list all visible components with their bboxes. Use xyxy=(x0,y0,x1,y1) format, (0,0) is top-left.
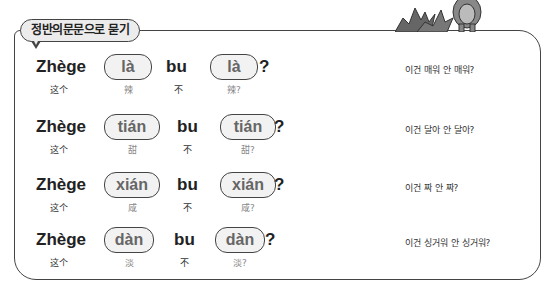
speech-tail-icon xyxy=(31,41,41,49)
adjective-repeat-hanzi: 甜? xyxy=(220,143,276,156)
subject-pinyin: Zhège xyxy=(36,230,86,250)
negation-pinyin: bu xyxy=(177,117,198,137)
adjective-hanzi: 辣 xyxy=(104,83,152,96)
sentence-row-3: Zhège 这个 xián 咸 bu 不 xián 咸? ? 이건 짜 안 짜? xyxy=(0,175,552,225)
korean-translation: 이건 달아 안 달아? xyxy=(405,123,474,136)
adjective-pill: dàn xyxy=(104,227,154,253)
section-title: 정반의문문으로 묻기 xyxy=(31,23,129,37)
question-mark: ? xyxy=(274,117,284,137)
mascot-decoration-icon xyxy=(395,0,485,32)
subject-hanzi: 这个 xyxy=(50,83,68,96)
negation-pinyin: bu xyxy=(174,230,195,250)
sentence-row-4: Zhège 这个 dàn 淡 bu 不 dàn 淡? ? 이건 싱거워 안 싱거… xyxy=(0,230,552,280)
adjective-pill: là xyxy=(104,54,152,80)
sentence-row-1: Zhège 这个 là 辣 bu 不 là 辣? ? 이건 매워 안 매워? xyxy=(0,57,552,107)
question-mark: ? xyxy=(274,175,284,195)
adjective-repeat-pill: tián xyxy=(220,114,276,140)
adjective-repeat-hanzi: 辣? xyxy=(210,83,258,96)
korean-translation: 이건 매워 안 매워? xyxy=(405,63,474,76)
section-title-bubble: 정반의문문으로 묻기 xyxy=(20,19,140,42)
negation-pinyin: bu xyxy=(177,175,198,195)
adjective-hanzi: 甜 xyxy=(104,143,160,156)
question-mark: ? xyxy=(265,230,275,250)
sentence-row-2: Zhège 这个 tián 甜 bu 不 tián 甜? ? 이건 달아 안 달… xyxy=(0,117,552,167)
negation-hanzi: 不 xyxy=(174,83,183,96)
subject-hanzi: 这个 xyxy=(50,201,68,214)
adjective-hanzi: 淡 xyxy=(104,256,154,269)
negation-hanzi: 不 xyxy=(180,256,189,269)
adjective-repeat-hanzi: 咸? xyxy=(220,201,276,214)
adjective-repeat-hanzi: 淡? xyxy=(215,256,265,269)
adjective-repeat-pill: là xyxy=(210,54,258,80)
negation-pinyin: bu xyxy=(166,57,187,77)
adjective-hanzi: 咸 xyxy=(104,201,160,214)
korean-translation: 이건 싱거워 안 싱거워? xyxy=(405,236,490,249)
subject-hanzi: 这个 xyxy=(50,256,68,269)
subject-hanzi: 这个 xyxy=(50,143,68,156)
adjective-pill: xián xyxy=(104,172,160,198)
adjective-repeat-pill: xián xyxy=(220,172,276,198)
subject-pinyin: Zhège xyxy=(36,175,86,195)
negation-hanzi: 不 xyxy=(183,201,192,214)
subject-pinyin: Zhège xyxy=(36,117,86,137)
korean-translation: 이건 짜 안 짜? xyxy=(405,181,458,194)
adjective-pill: tián xyxy=(104,114,160,140)
negation-hanzi: 不 xyxy=(183,143,192,156)
adjective-repeat-pill: dàn xyxy=(215,227,265,253)
question-mark: ? xyxy=(259,57,269,77)
subject-pinyin: Zhège xyxy=(36,57,86,77)
